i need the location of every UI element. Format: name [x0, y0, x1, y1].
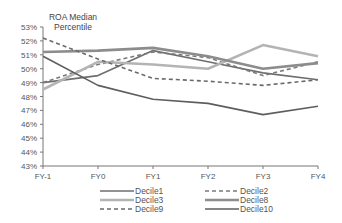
- legend-item-decile10: Decile10: [205, 204, 273, 214]
- y-tick-label: 46%: [21, 120, 37, 129]
- y-tick-label: 49%: [21, 79, 37, 88]
- series-lines: [43, 38, 318, 115]
- chart-title: ROA Median Percentile: [49, 12, 97, 32]
- y-axis: 43%44%45%46%47%48%49%50%51%52%53%: [21, 23, 43, 171]
- legend-label: Decile10: [240, 204, 273, 214]
- y-tick-label: 48%: [21, 93, 37, 102]
- x-axis: FY-1FY0FY1FY2FY3FY4: [35, 166, 326, 181]
- y-tick-label: 53%: [21, 23, 37, 32]
- x-tick-label: FY3: [256, 172, 271, 181]
- roa-median-percentile-chart: ROA Median Percentile 43%44%45%46%47%48%…: [0, 0, 342, 223]
- chart-title-line-1: ROA Median: [49, 12, 97, 22]
- x-tick-label: FY-1: [35, 172, 52, 181]
- y-tick-label: 45%: [21, 134, 37, 143]
- y-tick-label: 47%: [21, 106, 37, 115]
- y-tick-label: 50%: [21, 65, 37, 74]
- y-tick-label: 43%: [21, 162, 37, 171]
- x-tick-label: FY1: [146, 172, 161, 181]
- legend-item-decile9: Decile9: [100, 204, 164, 214]
- x-tick-label: FY0: [91, 172, 106, 181]
- legend: Decile1Decile2Decile3Decile8Decile9Decil…: [100, 186, 273, 214]
- y-tick-label: 52%: [21, 37, 37, 46]
- y-tick-label: 51%: [21, 51, 37, 60]
- series-line-decile10: [43, 56, 318, 114]
- legend-label: Decile9: [135, 204, 164, 214]
- x-tick-label: FY4: [311, 172, 326, 181]
- chart-title-line-2: Percentile: [54, 22, 92, 32]
- x-tick-label: FY2: [201, 172, 216, 181]
- y-tick-label: 44%: [21, 148, 37, 157]
